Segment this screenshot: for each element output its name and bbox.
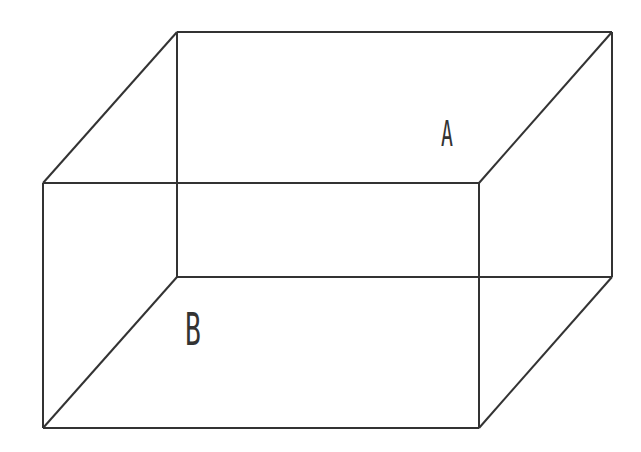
front-face [43,183,479,428]
bottom-right-depth-edge [479,277,612,428]
bottom-left-depth-edge [43,277,177,428]
top-right-depth-edge [479,32,612,183]
label-a: A [441,116,453,152]
depth-edges [43,32,612,428]
back-face [177,32,612,277]
box-diagram [0,0,641,452]
top-left-depth-edge [43,32,177,183]
label-b: B [185,308,201,352]
